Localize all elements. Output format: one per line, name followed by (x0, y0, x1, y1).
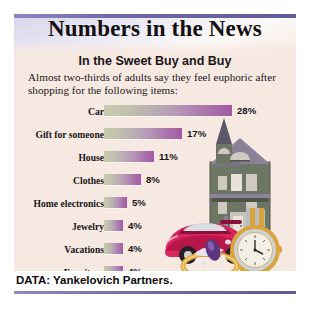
footer-bottom-rule (14, 291, 296, 294)
bar-fill (104, 151, 154, 162)
bar-row: Clothes 8% (14, 171, 296, 194)
bar-label: Gift for someone (14, 129, 104, 140)
infographic-panel: Numbers in the News In the Sweet Buy and… (14, 14, 296, 297)
bar-row: Jewelry 4% (14, 217, 296, 240)
bar-fill (104, 128, 182, 139)
bar-fill (104, 105, 232, 116)
source-footer: DATA: Yankelovich Partners. (14, 271, 296, 297)
bar-row: Home electronics 5% (14, 194, 296, 217)
bar-value: 8% (146, 174, 160, 185)
bar-label: Vacations (14, 244, 104, 255)
bar-value: 5% (132, 197, 146, 208)
bar-value: 11% (159, 151, 178, 162)
bar-fill (104, 197, 127, 208)
bar-value: 28% (237, 105, 256, 116)
bar-label: Clothes (14, 175, 104, 186)
chart-lede-text: Almost two-thirds of adults say they fee… (28, 71, 286, 97)
bar-fill (104, 220, 123, 231)
bar-value: 4% (128, 220, 142, 231)
bar-row: Vacations 4% (14, 240, 296, 263)
bar-label: House (14, 152, 104, 163)
bar-value: 4% (128, 243, 142, 254)
bar-fill (104, 243, 123, 254)
bar-row: Gift for someone 17% (14, 125, 296, 148)
chart-subtitle: In the Sweet Buy and Buy (14, 54, 296, 68)
bar-chart: Car 28% Gift for someone 17% House 11% C… (14, 102, 296, 286)
bar-fill (104, 174, 141, 185)
bar-label: Jewelry (14, 221, 104, 232)
bar-value: 17% (187, 128, 206, 139)
bar-label: Car (14, 106, 104, 117)
bar-row: House 11% (14, 148, 296, 171)
bar-label: Home electronics (14, 198, 104, 209)
page-title: Numbers in the News (14, 16, 296, 42)
source-text: DATA: Yankelovich Partners. (16, 274, 173, 286)
bar-row: Car 28% (14, 102, 296, 125)
